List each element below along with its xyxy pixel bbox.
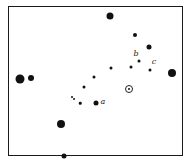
star-dot-icon — [110, 67, 113, 70]
star-dot-icon — [94, 101, 99, 106]
star-dot-icon — [93, 76, 96, 79]
star-dot-icon — [62, 154, 67, 159]
star-dot-icon — [73, 98, 75, 100]
label-c: c — [152, 58, 156, 66]
star-dot-icon — [147, 45, 152, 50]
star-dot-icon — [79, 102, 82, 105]
label-a: a — [101, 98, 106, 106]
star-dot-icon — [133, 33, 137, 37]
chart-frame — [8, 6, 183, 156]
label-b: b — [133, 50, 138, 58]
star-dot-icon — [83, 86, 86, 89]
star-dot-icon — [28, 75, 34, 81]
star-dot-icon — [138, 60, 141, 63]
star-dot-icon — [16, 75, 25, 84]
star-dot-icon — [149, 69, 152, 72]
star-dot-icon — [130, 66, 133, 69]
star-dot-icon — [168, 69, 176, 77]
sun-symbol-icon — [125, 85, 133, 93]
star-dot-icon — [107, 13, 114, 20]
star-dot-icon — [57, 120, 65, 128]
